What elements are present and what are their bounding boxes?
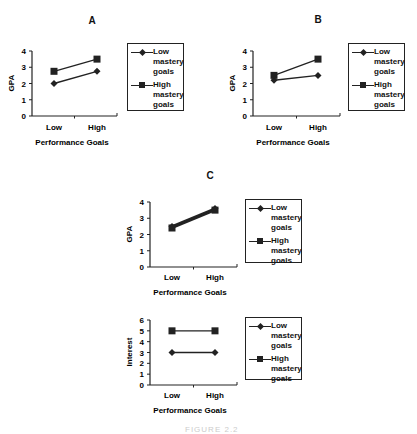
y-tick-label: 2	[243, 80, 248, 89]
x-category-label: Low	[266, 123, 283, 132]
square-marker-icon	[94, 56, 101, 63]
diamond-marker-icon	[212, 349, 219, 356]
y-tick-label: 4	[22, 47, 27, 56]
y-tick-label: 1	[140, 247, 145, 256]
y-tick-label: 4	[243, 47, 248, 56]
y-tick-label: 3	[140, 214, 145, 223]
legend-c: Low mastery goals High mastery goals	[245, 199, 302, 263]
y-tick-label: 3	[22, 63, 27, 72]
square-marker-icon	[212, 207, 219, 214]
y-tick-label: 3	[243, 63, 248, 72]
y-axis-label: GPA	[7, 74, 16, 91]
diamond-marker-icon	[51, 80, 58, 87]
y-tick-label: 2	[140, 231, 145, 240]
x-category-label: Low	[164, 391, 181, 400]
x-axis-label: Performance Goals	[256, 138, 330, 147]
y-tick-label: 0	[140, 381, 145, 390]
diamond-marker-icon	[169, 349, 176, 356]
y-tick-label: 2	[22, 80, 27, 89]
x-axis-label: Performance Goals	[35, 138, 109, 147]
series-line	[274, 59, 318, 75]
x-category-label: High	[309, 123, 327, 132]
x-axis-label: Performance Goals	[153, 406, 227, 415]
y-tick-label: 1	[22, 96, 27, 105]
legend-item-high-mastery: High mastery goals	[131, 80, 180, 110]
legend-a: Low mastery goals High mastery goals	[127, 43, 184, 111]
square-marker-icon	[315, 56, 322, 63]
diamond-marker-icon	[352, 47, 374, 57]
x-category-label: High	[206, 391, 224, 400]
y-axis-label: GPA	[228, 74, 237, 91]
square-marker-icon	[271, 72, 278, 79]
y-tick-label: 0	[140, 263, 145, 272]
square-marker-icon	[249, 354, 271, 364]
legend-item-low-mastery: Low mastery goals	[249, 203, 298, 233]
y-tick-label: 5	[140, 327, 145, 336]
legend-b: Low mastery goals High mastery goals	[348, 43, 405, 111]
square-marker-icon	[249, 236, 271, 246]
y-tick-label: 1	[243, 96, 248, 105]
x-category-label: High	[206, 273, 224, 282]
series-line	[172, 210, 215, 228]
x-axis-label: Performance Goals	[153, 288, 227, 297]
square-marker-icon	[169, 327, 176, 334]
series-line	[54, 59, 97, 71]
y-tick-label: 6	[140, 316, 145, 325]
diamond-marker-icon	[131, 47, 153, 57]
legend-item-high-mastery: High mastery goals	[249, 354, 298, 384]
legend-interest: Low mastery goals High mastery goals	[245, 317, 302, 380]
series-line	[172, 209, 215, 227]
square-marker-icon	[131, 80, 153, 90]
y-axis-label: Interest	[125, 337, 134, 366]
x-category-label: High	[88, 123, 106, 132]
legend-item-low-mastery: Low mastery goals	[352, 47, 401, 77]
y-tick-label: 1	[140, 370, 145, 379]
diamond-marker-icon	[249, 203, 271, 213]
diamond-marker-icon	[94, 68, 101, 75]
y-tick-label: 3	[140, 349, 145, 358]
x-category-label: Low	[164, 273, 181, 282]
y-tick-label: 0	[22, 112, 27, 121]
x-category-label: Low	[46, 123, 63, 132]
series-line	[274, 75, 318, 80]
y-axis-label: GPA	[125, 225, 134, 242]
diamond-marker-icon	[249, 321, 271, 331]
y-tick-label: 4	[140, 338, 145, 347]
figure-caption: FIGURE 2.2	[185, 425, 239, 434]
y-tick-label: 0	[243, 112, 248, 121]
legend-item-low-mastery: Low mastery goals	[249, 321, 298, 351]
series-line	[54, 71, 97, 83]
square-marker-icon	[51, 68, 58, 75]
y-tick-label: 2	[140, 359, 145, 368]
y-tick-label: 4	[140, 198, 145, 207]
square-marker-icon	[169, 225, 176, 232]
legend-item-low-mastery: Low mastery goals	[131, 47, 180, 77]
square-marker-icon	[352, 80, 374, 90]
square-marker-icon	[212, 327, 219, 334]
legend-item-high-mastery: High mastery goals	[249, 236, 298, 266]
legend-item-high-mastery: High mastery goals	[352, 80, 401, 110]
diamond-marker-icon	[315, 72, 322, 79]
